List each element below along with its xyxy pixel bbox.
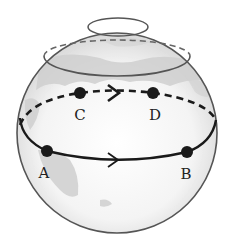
label-D: D (149, 106, 161, 124)
globe-diagram: A B C D (0, 0, 235, 241)
label-B: B (180, 165, 191, 183)
point-A (41, 145, 53, 157)
point-D (147, 87, 159, 99)
label-A: A (38, 164, 50, 182)
label-C: C (74, 106, 85, 124)
point-C (74, 87, 86, 99)
point-B (181, 146, 193, 158)
